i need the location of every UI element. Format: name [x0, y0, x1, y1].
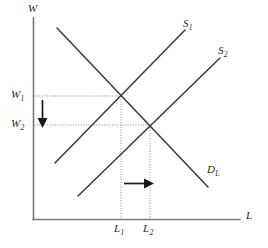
curve-label-dl-subscript: L	[215, 169, 219, 178]
tick-label-w2-subscript: 2	[20, 123, 24, 132]
tick-label-w1: W1	[11, 89, 24, 100]
tick-label-l1-subscript: 1	[120, 228, 124, 237]
supply-right-arrow-head	[144, 179, 154, 189]
supply-demand-diagram: W L S1 S2 DL W1 W2 L1 L2	[0, 0, 268, 248]
curve-label-s2: S2	[218, 45, 227, 56]
tick-label-w1-subscript: 1	[20, 94, 24, 103]
curve-label-s1: S1	[183, 18, 192, 29]
tick-label-w2-base: W	[11, 117, 20, 129]
tick-label-l1: L1	[114, 223, 124, 234]
tick-label-w2: W2	[11, 118, 24, 129]
curve-label-dl-base: D	[207, 163, 215, 175]
curve-label-s1-base: S	[183, 17, 189, 29]
tick-label-l2-subscript: 2	[149, 228, 153, 237]
demand-curve-dl	[57, 28, 208, 187]
wage-down-arrow-head	[38, 118, 48, 128]
tick-label-l2: L2	[143, 223, 153, 234]
diagram-canvas	[0, 0, 268, 248]
y-axis-label: W	[28, 3, 37, 14]
x-axis-label: L	[246, 210, 252, 221]
curve-label-dl: DL	[207, 164, 219, 175]
tick-label-w1-base: W	[11, 88, 20, 100]
supply-curve-s2	[78, 58, 220, 196]
curve-label-s2-subscript: 2	[224, 50, 228, 59]
curve-label-s2-base: S	[218, 44, 224, 56]
curve-label-s1-subscript: 1	[189, 23, 193, 32]
